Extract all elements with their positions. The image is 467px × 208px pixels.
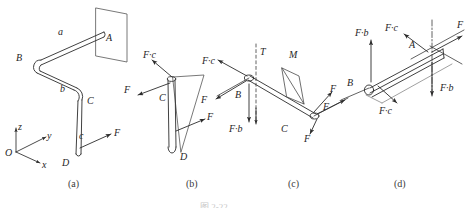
label-d-point-A: A (409, 40, 415, 50)
label-d-point-B: B (347, 78, 353, 88)
coordinate-axes (16, 128, 46, 163)
label-c-force-F-ur: F (330, 84, 336, 94)
label-c-moment-M: M (289, 50, 297, 60)
force-arrow-c-f-right (317, 100, 345, 114)
label-a-point-D: D (62, 158, 69, 168)
label-b-moment-Fc: F·c (143, 50, 156, 60)
label-b-force-F-left: F (124, 85, 130, 95)
label-c-torque-T: T (260, 47, 266, 57)
panel-caption-d: (d) (394, 178, 406, 189)
reference-line-d (411, 30, 464, 64)
label-d-moment-Fc-dl: F·c (379, 106, 392, 116)
reference-line-d-b (341, 88, 369, 100)
force-arrow-c-fc (218, 60, 247, 76)
label-b-force-F-right: F (207, 112, 213, 122)
force-arrow-d-f (432, 36, 462, 52)
label-c-point-B: B (235, 90, 241, 100)
label-c-moment-Fc: F·c (202, 56, 215, 66)
axis-label-x: x (42, 160, 46, 170)
engineering-figure: a A B b C c F D z y x O F·c F C F D F·c … (0, 0, 467, 208)
label-d-force-F: F (457, 20, 463, 30)
label-a-segment-a: a (58, 27, 63, 37)
label-b-point-D: D (180, 152, 187, 162)
axis-label-y: y (47, 131, 51, 141)
force-arrow-c-f-lr (310, 119, 317, 134)
label-b-point-C: C (159, 93, 166, 103)
axis-label-origin: O (5, 148, 12, 158)
label-c-moment-Fb: F·b (229, 124, 243, 134)
force-arrow-d-fc-ul (404, 34, 428, 52)
label-a-force-F: F (114, 128, 120, 138)
label-c-point-C: C (281, 124, 288, 134)
label-a-segment-b: b (60, 84, 65, 94)
label-d-moment-Fb-up: F·b (355, 28, 369, 38)
label-d-moment-Fb-down: F·b (440, 83, 454, 93)
label-c-force-F-left: F (201, 95, 207, 105)
label-d-moment-Fc-ul: F·c (385, 23, 398, 33)
label-a-point-B: B (16, 53, 22, 63)
label-a-segment-c: c (79, 131, 83, 141)
figure-caption: 图 2-22 (200, 200, 228, 208)
panel-caption-c: (c) (288, 178, 299, 189)
plate-b (173, 75, 204, 152)
label-c-force-F-right: F (323, 102, 329, 112)
moment-loop-c (282, 68, 304, 104)
label-a-point-A: A (106, 33, 112, 43)
panel-caption-a: (a) (68, 178, 79, 189)
force-arrow-a-d (80, 134, 111, 148)
force-arrow-c-f-left (216, 81, 246, 99)
panel-caption-b: (b) (186, 178, 198, 189)
axis-label-z: z (18, 122, 22, 132)
label-a-point-C: C (87, 96, 94, 106)
force-arrow-b-fc (152, 60, 172, 77)
label-c-force-F-lr: F (304, 134, 310, 144)
